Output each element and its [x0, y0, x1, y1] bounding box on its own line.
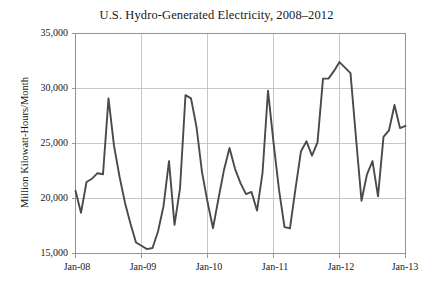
axis-tick-marks — [72, 34, 406, 258]
data-series-line — [76, 62, 406, 249]
chart-figure: U.S. Hydro-Generated Electricity, 2008–2… — [0, 0, 433, 297]
plot-area — [0, 0, 433, 297]
